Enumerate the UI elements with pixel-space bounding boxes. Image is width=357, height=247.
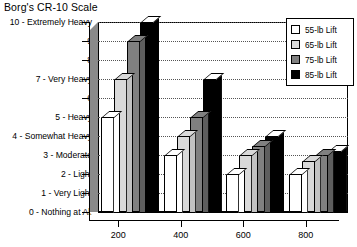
chart-root: Borg's CR-10 Scale 0 - Nothing at All1 -… [0, 0, 357, 247]
legend-item[interactable]: 75-lb Lift [291, 52, 350, 67]
legend-swatch-icon [291, 25, 300, 34]
y-axis-tick [82, 22, 89, 23]
y-axis-tick [82, 212, 89, 213]
y-axis-label: 4 - Somewhat Heavy [12, 131, 92, 141]
y-axis-tick [82, 79, 89, 80]
y-axis-tick [82, 155, 89, 156]
x-axis-label: 200 [111, 230, 126, 240]
legend-item[interactable]: 55-lb Lift [291, 22, 350, 37]
x-axis-tick [243, 221, 244, 227]
bar-side-face [215, 73, 222, 213]
chart-legend: 55-lb Lift65-lb Lift75-lb Lift85-lb Lift [286, 18, 354, 86]
y-axis-labels: 0 - Nothing at All1 - Very Light2 - Ligh… [0, 22, 92, 212]
plot-left-wall [89, 22, 98, 212]
bar-side-face [152, 16, 159, 213]
x-axis-tick [306, 221, 307, 227]
legend-label: 75-lb Lift [305, 55, 337, 65]
bar-side-face [189, 130, 196, 213]
bar[interactable] [101, 117, 114, 212]
bar-side-face [251, 149, 258, 213]
y-axis-label: 10 - Extremely Heavy [10, 17, 92, 27]
bar-side-face [176, 149, 183, 213]
legend-swatch-icon [291, 70, 300, 79]
bar-side-face [277, 130, 284, 213]
y-axis-line [89, 22, 90, 221]
bar-side-face [340, 145, 347, 213]
y-axis-tick [82, 41, 89, 42]
legend-item[interactable]: 85-lb Lift [291, 67, 350, 82]
y-axis-tick [82, 98, 89, 99]
bar-side-face [264, 140, 271, 214]
bar-side-face [126, 73, 133, 213]
plot-baseline [98, 212, 348, 213]
bar-side-face [113, 111, 120, 213]
y-axis-tick [82, 117, 89, 118]
y-axis-tick [82, 193, 89, 194]
y-axis-tick [82, 60, 89, 61]
bar-side-face [314, 155, 321, 213]
bar-side-face [202, 111, 209, 213]
x-axis-label: 400 [173, 230, 188, 240]
x-axis-label: 600 [236, 230, 251, 240]
bar-side-face [327, 149, 334, 213]
bar-side-face [139, 35, 146, 213]
bar[interactable] [164, 155, 177, 212]
x-axis-tick [118, 221, 119, 227]
legend-label: 65-lb Lift [305, 40, 337, 50]
legend-swatch-icon [291, 40, 300, 49]
x-axis-label: 800 [298, 230, 313, 240]
bar[interactable] [226, 174, 239, 212]
legend-label: 55-lb Lift [305, 25, 337, 35]
chart-title: Borg's CR-10 Scale [4, 1, 98, 13]
legend-label: 85-lb Lift [305, 70, 337, 80]
bar[interactable] [289, 174, 302, 212]
legend-item[interactable]: 65-lb Lift [291, 37, 350, 52]
x-axis-tick [181, 221, 182, 227]
y-axis-tick [82, 136, 89, 137]
y-axis-tick [82, 174, 89, 175]
x-axis-line [89, 220, 339, 221]
legend-swatch-icon [291, 55, 300, 64]
